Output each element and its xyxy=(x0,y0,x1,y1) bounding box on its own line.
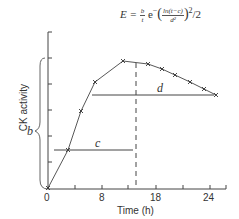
c-label: c xyxy=(95,136,100,151)
x-ticks xyxy=(75,185,226,189)
data-line xyxy=(48,61,216,188)
y-ticks xyxy=(48,32,52,162)
x-axis-label: Time (h) xyxy=(117,205,154,216)
d-label: d xyxy=(157,81,163,96)
y-axis-label: CK activity xyxy=(18,73,29,143)
data-markers xyxy=(46,59,218,190)
chart xyxy=(0,0,239,219)
x-tick-8: 8 xyxy=(99,192,105,203)
b-brace xyxy=(35,58,48,189)
x-tick-16: 18 xyxy=(150,192,161,203)
x-tick-0: 0 xyxy=(44,192,50,203)
x-tick-24: 24 xyxy=(203,192,214,203)
